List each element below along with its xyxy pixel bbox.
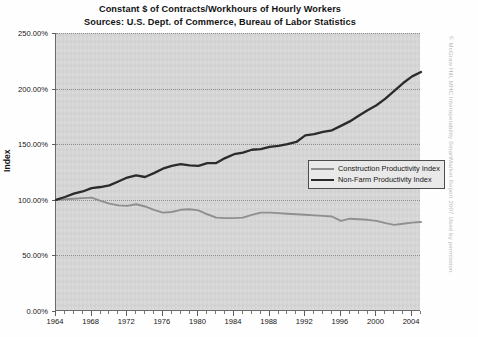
x-tick-mark-minor bbox=[349, 311, 350, 314]
chart-legend[interactable]: Construction Productivity IndexNon-Farm … bbox=[308, 160, 445, 189]
y-tick-mark bbox=[52, 311, 56, 312]
x-tick-label: 1980 bbox=[189, 317, 206, 326]
x-tick-mark bbox=[340, 311, 341, 316]
x-tick-mark-minor bbox=[73, 311, 74, 314]
x-tick-label: 1992 bbox=[296, 317, 313, 326]
x-tick-mark-minor bbox=[393, 311, 394, 314]
y-tick-label: 0.00% bbox=[26, 307, 48, 316]
x-tick-mark-minor bbox=[286, 311, 287, 314]
chart-title-block: Constant $ of Contracts/Workhours of Hou… bbox=[0, 3, 440, 28]
x-tick-mark-minor bbox=[82, 311, 83, 314]
x-tick-label: 1984 bbox=[225, 317, 242, 326]
x-tick-label: 1988 bbox=[260, 317, 277, 326]
x-tick-mark bbox=[411, 311, 412, 316]
legend-item[interactable]: Non-Farm Productivity Index bbox=[311, 174, 440, 185]
y-axis-ticks: 250.00%200.00%150.00%100.00%50.00%0.00% bbox=[0, 0, 55, 337]
x-tick-mark-minor bbox=[189, 311, 190, 314]
x-tick-mark bbox=[375, 311, 376, 316]
legend-swatch bbox=[311, 179, 334, 181]
chart-title: Constant $ of Contracts/Workhours of Hou… bbox=[0, 3, 440, 16]
y-tick-label: 150.00% bbox=[18, 140, 48, 149]
copyright-credit: © McGraw Hill, MHC Interoperability Smar… bbox=[448, 36, 455, 275]
y-tick-label: 200.00% bbox=[18, 84, 48, 93]
x-tick-mark-minor bbox=[144, 311, 145, 314]
x-tick-mark-minor bbox=[313, 311, 314, 314]
x-tick-label: 1968 bbox=[82, 317, 99, 326]
x-tick-mark-minor bbox=[331, 311, 332, 314]
x-tick-label: 1996 bbox=[331, 317, 348, 326]
x-tick-mark-minor bbox=[295, 311, 296, 314]
x-tick-mark-minor bbox=[402, 311, 403, 314]
series-line bbox=[56, 198, 421, 225]
x-tick-mark bbox=[91, 311, 92, 316]
legend-label: Non-Farm Productivity Index bbox=[338, 175, 432, 184]
x-tick-mark-minor bbox=[135, 311, 136, 314]
x-tick-mark-minor bbox=[117, 311, 118, 314]
x-tick-mark bbox=[197, 311, 198, 316]
y-tick-label: 100.00% bbox=[18, 195, 48, 204]
x-tick-mark-minor bbox=[180, 311, 181, 314]
x-tick-mark-minor bbox=[215, 311, 216, 314]
chart-subtitle: Sources: U.S. Dept. of Commerce, Bureau … bbox=[0, 16, 440, 29]
x-tick-mark-minor bbox=[242, 311, 243, 314]
x-tick-mark-minor bbox=[153, 311, 154, 314]
x-tick-mark-minor bbox=[251, 311, 252, 314]
x-tick-mark-minor bbox=[64, 311, 65, 314]
x-tick-mark bbox=[304, 311, 305, 316]
x-tick-label: 1976 bbox=[153, 317, 170, 326]
legend-item[interactable]: Construction Productivity Index bbox=[311, 163, 440, 174]
x-tick-mark-minor bbox=[278, 311, 279, 314]
legend-swatch bbox=[311, 168, 334, 170]
x-tick-mark bbox=[126, 311, 127, 316]
x-tick-mark-minor bbox=[171, 311, 172, 314]
x-tick-mark-minor bbox=[358, 311, 359, 314]
x-tick-label: 2004 bbox=[403, 317, 420, 326]
x-tick-mark-minor bbox=[367, 311, 368, 314]
x-tick-mark-minor bbox=[224, 311, 225, 314]
x-tick-mark-minor bbox=[100, 311, 101, 314]
x-tick-mark bbox=[233, 311, 234, 316]
x-tick-mark-minor bbox=[322, 311, 323, 314]
x-tick-mark bbox=[162, 311, 163, 316]
x-tick-mark-minor bbox=[420, 311, 421, 314]
y-tick-label: 50.00% bbox=[22, 251, 48, 260]
x-tick-label: 1972 bbox=[118, 317, 135, 326]
x-tick-mark-minor bbox=[260, 311, 261, 314]
x-tick-mark-minor bbox=[206, 311, 207, 314]
y-tick-label: 250.00% bbox=[18, 29, 48, 38]
x-tick-label: 1964 bbox=[47, 317, 64, 326]
x-tick-mark-minor bbox=[384, 311, 385, 314]
x-tick-mark-minor bbox=[108, 311, 109, 314]
chart-figure: Constant $ of Contracts/Workhours of Hou… bbox=[0, 0, 478, 337]
x-tick-mark bbox=[269, 311, 270, 316]
legend-label: Construction Productivity Index bbox=[338, 164, 440, 173]
x-tick-label: 2000 bbox=[367, 317, 384, 326]
